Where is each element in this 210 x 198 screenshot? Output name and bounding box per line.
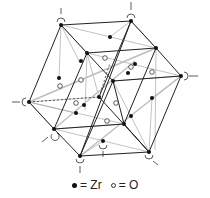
zr-legend-label: = Zr <box>80 178 102 192</box>
o-atom <box>114 101 119 106</box>
zr-legend-icon <box>72 183 77 188</box>
o-legend-icon <box>111 183 116 188</box>
o-atom <box>79 78 84 83</box>
zr-atom <box>82 103 86 107</box>
o-atom <box>103 56 108 61</box>
zr-atom <box>85 51 89 55</box>
o-atom <box>58 84 63 89</box>
zr-atom <box>122 122 126 126</box>
zr-atom <box>57 76 61 80</box>
zr-atom <box>79 59 83 63</box>
zr-atom <box>147 150 151 154</box>
o-legend-label: = O <box>119 178 139 192</box>
o-atom <box>150 70 155 75</box>
zr-atom <box>52 127 56 131</box>
zr-atom <box>150 96 154 100</box>
zr-atom <box>133 62 137 66</box>
zr-atom <box>78 154 82 158</box>
vertex-stubs <box>12 2 198 173</box>
zr-atom <box>179 74 183 78</box>
o-atom <box>105 119 110 124</box>
zr-atom <box>154 46 158 50</box>
legend: = Zr = O <box>72 178 152 192</box>
zr-atom <box>129 19 133 23</box>
zr-atom <box>108 35 112 39</box>
zr-atom <box>59 23 63 27</box>
zr-atom <box>111 79 115 83</box>
zr-atom <box>129 114 133 118</box>
o-atom <box>129 65 134 70</box>
zr-atom <box>27 100 31 104</box>
gray-diagonals <box>29 48 181 156</box>
zr-atom <box>74 111 78 115</box>
zr-atom <box>126 71 130 75</box>
crystal-structure-diagram <box>0 0 210 198</box>
zr-atom <box>97 95 101 99</box>
zr-atom <box>101 139 105 143</box>
o-atom <box>74 101 79 106</box>
